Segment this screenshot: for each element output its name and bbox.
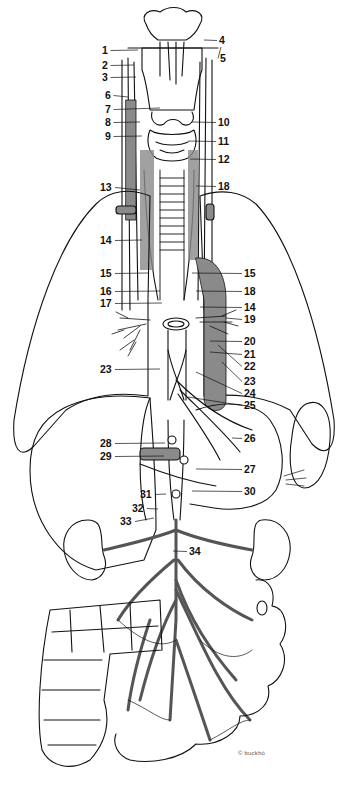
stomach-outline	[190, 404, 282, 509]
callout-label-28: 28	[100, 438, 112, 449]
callout-label-5: 5	[220, 53, 226, 64]
artist-signature: © buckhö	[238, 750, 265, 756]
renal-vessel	[140, 448, 180, 460]
leader-line	[115, 456, 164, 457]
callout-label-14: 14	[244, 302, 256, 313]
leader-line	[135, 518, 154, 522]
leader-line	[114, 122, 141, 123]
leader-line	[204, 40, 217, 41]
tongue-outline	[144, 8, 202, 41]
callout-label-18: 18	[218, 181, 230, 192]
callout-label-24: 24	[244, 388, 256, 399]
small-intestine-outline	[115, 580, 286, 762]
leader-line	[115, 443, 165, 444]
callout-label-10: 10	[218, 117, 230, 128]
spleen-outline	[290, 403, 330, 489]
callout-label-25: 25	[244, 400, 256, 411]
callout-label-29: 29	[100, 451, 112, 462]
left-kidney-outline	[64, 520, 106, 580]
aorta-shaded	[196, 258, 226, 411]
leader-line	[115, 291, 160, 292]
leader-line	[196, 469, 242, 470]
esophagus-section	[163, 318, 189, 330]
callout-label-1: 1	[102, 45, 108, 56]
leader-line	[200, 307, 242, 308]
callout-label-17: 17	[100, 298, 112, 309]
leader-line	[196, 186, 216, 187]
leader-line	[115, 369, 160, 370]
leader-line	[115, 240, 142, 241]
callout-label-22: 22	[244, 361, 256, 372]
callout-label-21: 21	[244, 349, 256, 360]
callout-label-15: 15	[244, 268, 256, 279]
vessel-outlines	[118, 620, 252, 740]
callout-label-12: 12	[218, 154, 230, 165]
callout-label-16: 16	[100, 286, 112, 297]
callout-label-8: 8	[105, 117, 111, 128]
leader-line	[114, 136, 143, 137]
leader-line	[111, 65, 135, 66]
callout-label-19: 19	[244, 314, 256, 325]
callout-label-4: 4	[219, 35, 225, 46]
callout-label-26: 26	[244, 433, 256, 444]
leader-line	[147, 509, 158, 510]
leader-line	[226, 318, 242, 320]
callout-label-20: 20	[244, 336, 256, 347]
leader-line	[155, 494, 166, 495]
callout-label-34: 34	[189, 546, 201, 557]
leader-line	[115, 303, 162, 304]
mesenteric-vessels	[104, 520, 252, 740]
leader-line	[196, 291, 242, 292]
callout-label-23: 23	[100, 364, 112, 375]
larynx-outline	[152, 112, 194, 125]
callout-label-27: 27	[244, 464, 256, 475]
callout-label-13: 13	[100, 182, 112, 193]
right-kidney-outline	[251, 520, 291, 580]
leader-line	[190, 159, 216, 160]
leader-line	[192, 491, 242, 492]
leader-line	[210, 341, 242, 342]
leader-line	[188, 141, 216, 142]
callout-label-32: 32	[132, 503, 144, 514]
intestine-cut-end	[257, 601, 267, 615]
callout-label-33: 33	[120, 516, 132, 527]
leader-line	[173, 551, 187, 552]
callout-label-11: 11	[218, 136, 229, 147]
celiac-plexus	[140, 420, 216, 520]
leader-line	[114, 108, 161, 110]
leader-line	[111, 50, 139, 51]
shaded-vessel-left	[126, 100, 136, 220]
leader-line	[192, 273, 242, 274]
callout-label-2: 2	[102, 60, 108, 71]
callout-label-31: 31	[140, 489, 152, 500]
anatomical-diagram	[0, 0, 350, 785]
leader-line	[114, 96, 129, 98]
callout-label-30: 30	[244, 486, 256, 497]
callout-label-18: 18	[244, 286, 256, 297]
leader-line	[115, 273, 148, 274]
callout-label-9: 9	[105, 131, 111, 142]
trachea	[160, 170, 184, 300]
leader-line	[192, 122, 216, 123]
callout-label-14: 14	[100, 235, 112, 246]
callout-label-3: 3	[102, 72, 108, 83]
callout-label-15: 15	[100, 268, 112, 279]
callout-label-7: 7	[105, 104, 111, 115]
leader-line	[111, 77, 137, 78]
callout-label-6: 6	[105, 90, 111, 101]
liver-outline	[30, 396, 156, 570]
callout-label-23: 23	[244, 376, 256, 387]
esophagus-column	[142, 48, 202, 110]
leader-line	[232, 438, 242, 439]
